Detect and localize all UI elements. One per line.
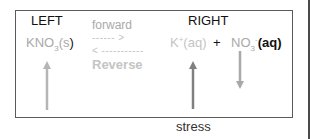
stress-up-arrow-icon [189,61,197,109]
down-arrow-icon [236,51,244,89]
up-arrow-icon [43,61,51,110]
arrows-layer [0,0,311,139]
